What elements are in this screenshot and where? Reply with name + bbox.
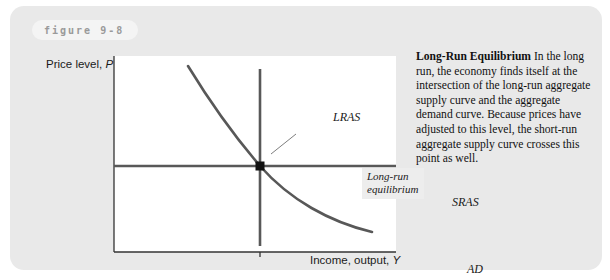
equilibrium-point-marker: [256, 162, 265, 171]
ad-curve-label: AD: [467, 262, 483, 277]
y-axis-label: Price level, P: [46, 58, 113, 70]
figure-caption: Long-Run Equilibrium In the long run, th…: [416, 50, 592, 167]
callout-line-2: equilibrium: [367, 183, 418, 195]
callout-line-1: Long-run: [367, 170, 409, 182]
caption-title: Long-Run Equilibrium: [416, 50, 531, 63]
y-axis-label-variable: P: [105, 58, 113, 70]
chart-svg: [100, 50, 400, 262]
sras-curve-label: SRAS: [452, 195, 479, 210]
y-axis-label-text: Price level,: [46, 58, 105, 70]
x-axis-label-variable: Y: [392, 254, 400, 266]
lras-curve-label: LRAS: [333, 110, 360, 125]
figure-number-tab: figure 9-8: [32, 20, 138, 40]
equilibrium-callout: Long-run equilibrium: [362, 168, 424, 199]
caption-body: In the long run, the economy finds itsel…: [416, 50, 590, 165]
x-axis-label-text: Income, output,: [310, 254, 392, 266]
chart-plot-area: LRAS SRAS AD Long-run equilibrium Y: [100, 50, 400, 262]
figure-card: figure 9-8 LRAS SRAS AD Long-r: [10, 6, 602, 270]
x-axis-label: Income, output, Y: [310, 254, 400, 266]
figure-number-label: figure 9-8: [44, 25, 124, 36]
plot-background: [114, 56, 396, 252]
